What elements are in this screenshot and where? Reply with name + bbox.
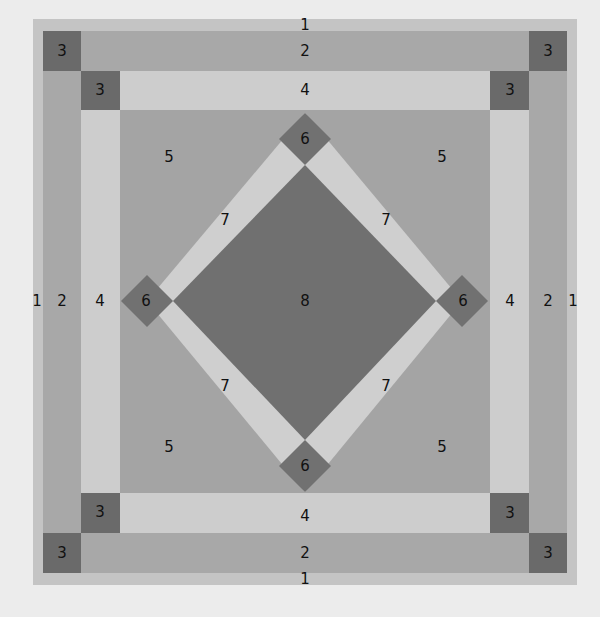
label-corner3-inner-bl: 3 — [95, 503, 105, 521]
label-field5-tr: 5 — [437, 148, 447, 166]
label-corner3-inner-br: 3 — [505, 504, 515, 522]
quilt-diagram: 1 1 1 1 2 2 2 2 3 3 3 3 3 3 3 3 4 4 4 4 … — [0, 0, 600, 617]
label-sash7-br: 7 — [381, 377, 391, 395]
label-diamond6-right: 6 — [458, 292, 468, 310]
label-corner3-outer-tr: 3 — [543, 42, 553, 60]
label-corner3-outer-tl: 3 — [57, 42, 67, 60]
label-border1-bottom: 1 — [300, 570, 310, 588]
label-border4-left: 4 — [95, 292, 105, 310]
label-field5-tl: 5 — [164, 148, 174, 166]
label-border4-bottom: 4 — [300, 507, 310, 525]
label-sash7-tr: 7 — [381, 211, 391, 229]
label-sash7-tl: 7 — [220, 211, 230, 229]
label-border1-left: 1 — [32, 292, 42, 310]
label-corner3-outer-br: 3 — [543, 544, 553, 562]
label-border2-right: 2 — [543, 292, 553, 310]
label-border2-left: 2 — [57, 292, 67, 310]
label-field5-bl: 5 — [164, 438, 174, 456]
label-diamond6-top: 6 — [300, 130, 310, 148]
label-border2-top: 2 — [300, 42, 310, 60]
label-corner3-inner-tr: 3 — [505, 81, 515, 99]
label-border2-bottom: 2 — [300, 544, 310, 562]
label-sash7-bl: 7 — [220, 377, 230, 395]
label-border1-top: 1 — [300, 16, 310, 34]
label-corner3-inner-tl: 3 — [95, 81, 105, 99]
label-diamond6-bottom: 6 — [300, 457, 310, 475]
label-field5-br: 5 — [437, 438, 447, 456]
label-diamond6-left: 6 — [141, 292, 151, 310]
label-center8: 8 — [300, 292, 310, 310]
label-border4-right: 4 — [505, 292, 515, 310]
label-corner3-outer-bl: 3 — [57, 544, 67, 562]
label-border4-top: 4 — [300, 81, 310, 99]
label-border1-right: 1 — [568, 292, 578, 310]
